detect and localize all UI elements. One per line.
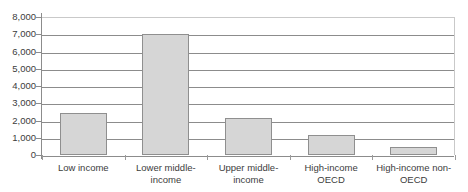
x-axis-label-line: OECD (373, 174, 454, 186)
y-axis-tick-mark (36, 86, 42, 87)
x-axis-category-label: Lower middle-income (125, 162, 208, 186)
x-axis-tick-marks (42, 155, 455, 160)
x-axis-label-line: income (208, 174, 289, 186)
y-axis-tick-label: 7,000 (12, 29, 36, 39)
y-axis-tick-label: 4,000 (12, 81, 36, 91)
x-axis-tick-mark (372, 155, 373, 160)
bar-chart: 8,0007,0006,0005,0004,0003,0002,0001,000… (0, 0, 468, 192)
x-axis-label-line: Low income (43, 162, 124, 174)
y-axis-tick-label: 5,000 (12, 64, 36, 74)
bar-slot (207, 17, 290, 155)
x-axis-label-line: Lower middle- (126, 162, 207, 174)
x-axis-tick-mark (42, 155, 43, 160)
x-axis-tick-mark (455, 155, 456, 160)
bar (390, 147, 437, 155)
bars-layer (42, 17, 455, 155)
y-axis-tick-label: 1,000 (12, 133, 36, 143)
y-axis-tick-label: 3,000 (12, 98, 36, 108)
x-axis-label-line: High-income non- (373, 162, 454, 174)
bar (60, 113, 107, 155)
x-axis-tick-mark (290, 155, 291, 160)
bar-slot (125, 17, 208, 155)
x-axis-category-label: Upper middle-income (207, 162, 290, 186)
bar (142, 34, 189, 155)
x-axis-category-label: Low income (42, 162, 125, 186)
y-axis-tick-label: 8,000 (12, 12, 36, 22)
x-axis-category-label: High-incomeOECD (290, 162, 373, 186)
y-axis-tick-mark (36, 17, 42, 18)
bar (308, 135, 355, 155)
x-axis-category-label: High-income non-OECD (372, 162, 455, 186)
y-axis-tick-labels: 8,0007,0006,0005,0004,0003,0002,0001,000… (0, 0, 42, 192)
x-axis-tick-mark (125, 155, 126, 160)
y-axis-tick-mark (36, 34, 42, 35)
x-axis-tick-mark (207, 155, 208, 160)
bar-slot (372, 17, 455, 155)
y-axis-tick-mark (36, 52, 42, 53)
y-axis-tick-mark (36, 155, 42, 156)
bar-slot (42, 17, 125, 155)
y-axis-tick-mark (36, 69, 42, 70)
y-axis-tick-mark (36, 121, 42, 122)
y-axis-tick-label: 6,000 (12, 47, 36, 57)
x-axis-label-line: income (126, 174, 207, 186)
bar-slot (290, 17, 373, 155)
y-axis-tick-mark (36, 138, 42, 139)
x-axis-label-line: OECD (291, 174, 372, 186)
y-axis-tick-label: 2,000 (12, 116, 36, 126)
x-axis-label-line: Upper middle- (208, 162, 289, 174)
x-axis-category-labels: Low incomeLower middle-incomeUpper middl… (42, 162, 455, 186)
x-axis-label-line: High-income (291, 162, 372, 174)
y-axis-tick-mark (36, 103, 42, 104)
bar (225, 118, 272, 155)
